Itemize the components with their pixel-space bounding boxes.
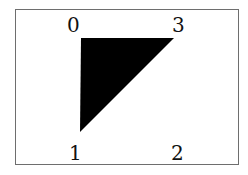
- vertex-label-1: 1: [69, 141, 82, 165]
- filled-triangle: [80, 38, 174, 132]
- vertex-label-0: 0: [67, 13, 80, 37]
- diagram-canvas: 0 3 1 2: [0, 0, 248, 175]
- vertex-label-2: 2: [171, 141, 184, 165]
- vertex-label-3: 3: [172, 13, 185, 37]
